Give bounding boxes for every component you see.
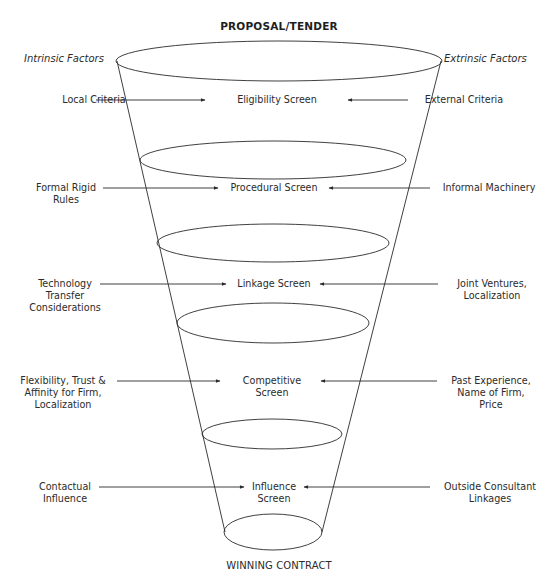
ellipse-bottom bbox=[224, 514, 322, 550]
left-factor-4: Flexibility, Trust & Affinity for Firm, … bbox=[10, 375, 116, 411]
funnel-right-side bbox=[322, 61, 441, 532]
diagram-title: PROPOSAL/TENDER bbox=[0, 20, 558, 32]
screen-label-competitive: Competitive Screen bbox=[224, 375, 320, 399]
intrinsic-factors-header: Intrinsic Factors bbox=[24, 53, 104, 64]
right-factor-2: Informal Machinery bbox=[434, 182, 544, 194]
left-factor-5: Contactual Influence bbox=[30, 481, 100, 505]
right-factor-4: Past Experience, Name of Firm, Price bbox=[438, 375, 544, 411]
left-factor-3: Technology Transfer Considerations bbox=[22, 278, 108, 314]
extrinsic-factors-header: Extrinsic Factors bbox=[444, 53, 527, 64]
screen-label-eligibility: Eligibility Screen bbox=[212, 94, 342, 106]
ellipse-top bbox=[116, 41, 442, 81]
left-factor-1: Local Criteria bbox=[0, 94, 188, 106]
left-factor-2: Formal Rigid Rules bbox=[28, 182, 104, 206]
screen-label-procedural: Procedural Screen bbox=[222, 182, 326, 194]
ellipse-5 bbox=[202, 419, 342, 449]
ellipse-3 bbox=[157, 224, 389, 262]
right-factor-3: Joint Ventures, Localization bbox=[444, 278, 540, 302]
screen-label-influence: Influence Screen bbox=[244, 481, 304, 505]
screen-label-linkage: Linkage Screen bbox=[230, 278, 318, 290]
funnel-left-side bbox=[117, 61, 225, 532]
ellipse-4 bbox=[177, 303, 369, 343]
ellipse-2 bbox=[140, 141, 406, 179]
diagram-footer: WINNING CONTRACT bbox=[0, 560, 558, 571]
right-factor-1: External Criteria bbox=[412, 94, 516, 106]
right-factor-5: Outside Consultant Linkages bbox=[434, 481, 546, 505]
